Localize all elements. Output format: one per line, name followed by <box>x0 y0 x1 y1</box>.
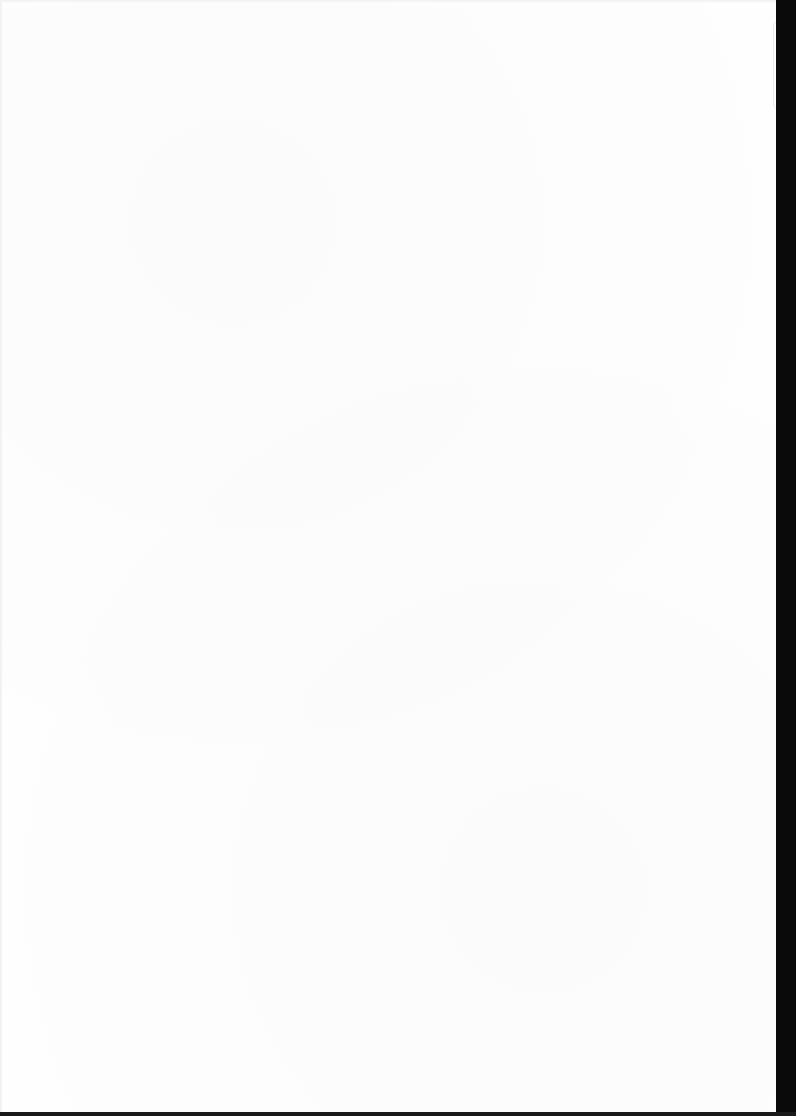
blank-page <box>0 0 776 1112</box>
scanner-bottom-edge <box>0 1112 796 1116</box>
page-top-edge <box>0 0 776 3</box>
scanner-edge-shadow <box>776 0 796 1116</box>
page-left-edge <box>0 0 2 1112</box>
